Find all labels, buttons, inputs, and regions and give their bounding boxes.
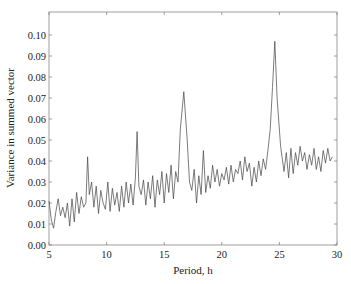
y-tick-label: 0.05 (28, 135, 46, 146)
y-tick-label: 0.08 (28, 72, 46, 83)
y-tick-label: 0.04 (28, 156, 47, 167)
plot-area: 0.000.010.020.030.040.050.060.070.080.09… (28, 12, 343, 260)
x-axis-label: Period, h (173, 264, 213, 276)
x-tick-label: 25 (274, 249, 285, 260)
chart: 0.000.010.020.030.040.050.060.070.080.09… (0, 0, 351, 284)
data-line (49, 41, 332, 228)
y-tick-label: 0.09 (28, 51, 46, 62)
y-axis-label: Variance in summed vector (4, 68, 16, 188)
y-tick-label: 0.02 (28, 198, 46, 209)
plot-frame (49, 12, 337, 245)
y-tick-label: 0.01 (28, 219, 46, 230)
x-tick-label: 5 (46, 249, 51, 260)
y-tick-label: 0.06 (28, 114, 46, 125)
x-tick-label: 15 (159, 249, 170, 260)
y-tick-label: 0.10 (28, 30, 46, 41)
x-axis-ticks: 51015202530 (46, 12, 342, 260)
x-tick-label: 10 (101, 249, 112, 260)
y-tick-label: 0.03 (28, 177, 46, 188)
x-tick-label: 30 (332, 249, 343, 260)
y-tick-label: 0.07 (28, 93, 46, 104)
y-tick-label: 0.00 (28, 240, 46, 251)
x-tick-label: 20 (217, 249, 228, 260)
